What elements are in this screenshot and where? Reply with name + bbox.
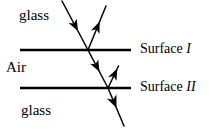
transmitted-ray-bottom-arrowhead	[107, 94, 121, 110]
label-glass-bottom: glass	[21, 103, 51, 118]
label-surface-1-numeral: I	[186, 41, 191, 56]
ray-diagram-figure: glass Air glass Surface I Surface II	[0, 0, 209, 133]
label-glass-top: glass	[19, 8, 49, 23]
reflected-ray-surface-2-arrowhead	[108, 67, 121, 81]
label-medium-air: Air	[6, 60, 26, 75]
label-surface-1-text: Surface	[140, 41, 186, 56]
reflected-ray-surface-1-arrowhead	[91, 20, 104, 34]
label-surface-2: Surface II	[140, 80, 196, 94]
incident-ray-arrowhead	[69, 19, 83, 33]
label-surface-1: Surface I	[140, 42, 191, 56]
label-surface-2-text: Surface	[140, 79, 186, 94]
label-surface-2-numeral: II	[186, 79, 195, 94]
refracted-ray-air-arrowhead	[90, 59, 104, 73]
